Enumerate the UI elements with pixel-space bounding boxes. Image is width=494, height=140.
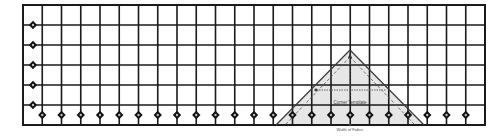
bottom-marker-center — [137, 114, 139, 116]
bottom-marker-center — [465, 114, 467, 116]
fabric-width-label: Width of Fabric — [337, 127, 364, 132]
bottom-marker-center — [388, 114, 390, 116]
template-measure-dot — [315, 89, 318, 92]
bottom-marker-center — [195, 114, 197, 116]
bottom-marker-center — [99, 114, 101, 116]
bottom-marker-center — [272, 114, 274, 116]
quilt-grid-diagram: Corner Template Width of Fabric — [0, 0, 494, 140]
left-marker-center — [32, 104, 34, 106]
bottom-marker-center — [60, 114, 62, 116]
bottom-marker-center — [176, 114, 178, 116]
left-marker-center — [32, 44, 34, 46]
bottom-marker-center — [349, 114, 351, 116]
left-marker-center — [32, 24, 34, 26]
bottom-marker-center — [407, 114, 409, 116]
bottom-marker-center — [253, 114, 255, 116]
bottom-marker-center — [41, 114, 43, 116]
left-marker-center — [32, 64, 34, 66]
bottom-marker-center — [426, 114, 428, 116]
bottom-marker-center — [214, 114, 216, 116]
template-base-dot — [349, 124, 352, 127]
bottom-marker-center — [445, 114, 447, 116]
bottom-marker-center — [368, 114, 370, 116]
bottom-marker-center — [291, 114, 293, 116]
bottom-marker-center — [157, 114, 159, 116]
bottom-marker-center — [330, 114, 332, 116]
bottom-marker-center — [234, 114, 236, 116]
grid-lines — [23, 5, 485, 125]
corner-template-label: Corner Template — [333, 100, 367, 105]
bottom-marker-center — [80, 114, 82, 116]
bottom-marker-center — [118, 114, 120, 116]
bottom-marker-center — [311, 114, 313, 116]
left-marker-center — [32, 84, 34, 86]
